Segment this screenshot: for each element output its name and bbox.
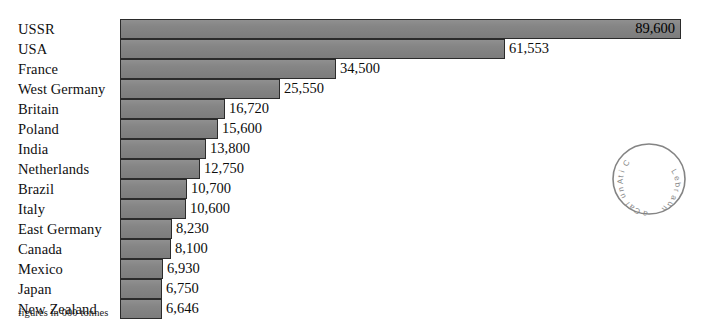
- bar-value-label: 15,600: [218, 119, 262, 139]
- category-label: Italy: [18, 199, 45, 219]
- bar: [120, 139, 206, 159]
- bar-value-label: 12,750: [200, 159, 244, 179]
- bar: [120, 159, 200, 179]
- bar-container: 6,646: [120, 299, 162, 319]
- bar: [120, 19, 681, 39]
- category-label: Britain: [18, 99, 59, 119]
- bar-row: France34,500: [0, 59, 705, 79]
- svg-text:u: u: [618, 192, 628, 200]
- bar-container: 16,720: [120, 99, 225, 119]
- bar-row: Poland15,600: [0, 119, 705, 139]
- svg-text:r: r: [672, 189, 681, 192]
- bar: [120, 59, 336, 79]
- bar: [120, 39, 505, 59]
- bar-row: USSR89,600: [0, 19, 705, 39]
- bar-container: 6,930: [120, 259, 163, 279]
- bar: [120, 259, 163, 279]
- bar: [120, 199, 186, 219]
- bar-container: 89,600: [120, 19, 681, 39]
- bar: [120, 119, 218, 139]
- category-label: India: [18, 139, 48, 159]
- bar-row: India13,800: [0, 139, 705, 159]
- bar-value-label: 25,550: [280, 79, 324, 99]
- bar-chart-rows: USSR89,600USA61,553France34,500West Germ…: [0, 19, 705, 319]
- category-label: France: [18, 59, 58, 79]
- svg-text:n: n: [616, 186, 626, 192]
- bar: [120, 219, 172, 239]
- bar: [120, 79, 280, 99]
- bar: [120, 99, 225, 119]
- bar-value-label: 89,600: [635, 19, 675, 39]
- svg-text:A: A: [616, 178, 625, 184]
- bar-row: Japan6,750: [0, 279, 705, 299]
- svg-text:a: a: [669, 195, 679, 202]
- category-label: Poland: [18, 119, 59, 139]
- category-label: Brazil: [18, 179, 54, 199]
- bar-value-label: 13,800: [206, 139, 250, 159]
- bar-row: USA61,553: [0, 39, 705, 59]
- bar: [120, 279, 162, 299]
- bar-container: 61,553: [120, 39, 505, 59]
- bar-value-label: 6,930: [163, 259, 200, 279]
- bar-value-label: 6,646: [162, 299, 199, 319]
- category-label: Mexico: [18, 259, 63, 279]
- bar-row: Mexico6,930: [0, 259, 705, 279]
- bar-value-label: 8,100: [171, 239, 208, 259]
- chart-footnote: figures in 000 tonnes: [18, 307, 108, 318]
- svg-text:t: t: [616, 174, 625, 179]
- bar: [120, 179, 187, 199]
- bar-row: Italy10,600: [0, 199, 705, 219]
- bar-container: 10,600: [120, 199, 186, 219]
- bar-row: East Germany8,230: [0, 219, 705, 239]
- bar-container: 15,600: [120, 119, 218, 139]
- bar-value-label: 61,553: [505, 39, 549, 59]
- bar-row: Britain16,720: [0, 99, 705, 119]
- bar-value-label: 34,500: [336, 59, 380, 79]
- svg-text:i: i: [617, 169, 626, 174]
- bar: [120, 239, 171, 259]
- bar-value-label: 16,720: [225, 99, 269, 119]
- category-label: Netherlands: [18, 159, 89, 179]
- bar-row: West Germany25,550: [0, 79, 705, 99]
- category-label: East Germany: [18, 219, 102, 239]
- svg-text:C: C: [621, 158, 632, 168]
- bar-container: 10,700: [120, 179, 187, 199]
- bar-row: Brazil10,700: [0, 179, 705, 199]
- bar-value-label: 10,700: [187, 179, 231, 199]
- bar-container: 34,500: [120, 59, 336, 79]
- bar-value-label: 8,230: [172, 219, 209, 239]
- category-label: Japan: [18, 279, 52, 299]
- bar-container: 8,100: [120, 239, 171, 259]
- bar-container: 8,230: [120, 219, 172, 239]
- bar-value-label: 10,600: [186, 199, 230, 219]
- bar-row: Canada8,100: [0, 239, 705, 259]
- category-label: West Germany: [18, 79, 105, 99]
- bar-chart-figure: USSR89,600USA61,553France34,500West Germ…: [0, 0, 705, 327]
- bar-container: 6,750: [120, 279, 162, 299]
- category-label: Canada: [18, 239, 62, 259]
- bar-row: Netherlands12,750: [0, 159, 705, 179]
- category-label: USA: [18, 39, 47, 59]
- svg-text:b: b: [673, 182, 683, 188]
- bar-container: 12,750: [120, 159, 200, 179]
- bar-container: 25,550: [120, 79, 280, 99]
- category-label: USSR: [18, 19, 55, 39]
- bar: [120, 299, 162, 319]
- bar-container: 13,800: [120, 139, 206, 159]
- library-stamp: C i t A n u l a C a L e b r a u n: [603, 133, 695, 225]
- bar-value-label: 6,750: [162, 279, 199, 299]
